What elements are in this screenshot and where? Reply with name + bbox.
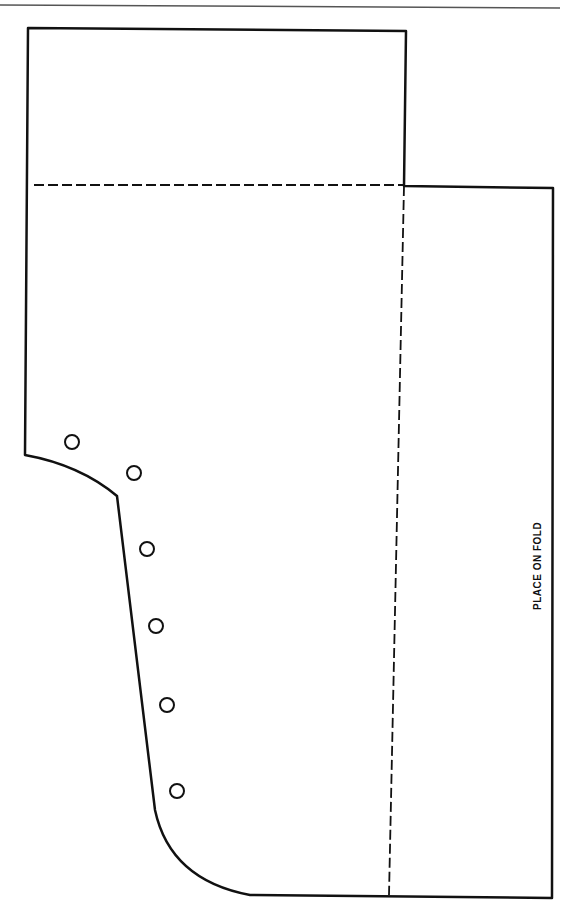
button-marking-circle: [149, 619, 163, 633]
button-marking-circle: [170, 784, 184, 798]
place-on-fold-label: PLACE ON FOLD: [532, 522, 543, 610]
button-marking-circle: [160, 698, 174, 712]
pattern-canvas: [0, 0, 573, 921]
button-marking-circle: [140, 542, 154, 556]
header-rule: [0, 5, 560, 8]
button-marking-circle: [65, 435, 79, 449]
button-marking-circle: [127, 466, 141, 480]
pattern-outline: [25, 28, 553, 898]
vertical-dashed-line: [389, 186, 404, 895]
